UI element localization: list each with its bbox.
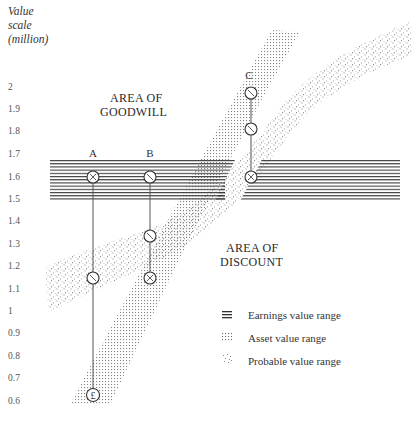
discount-line-1: AREA OF: [220, 241, 283, 255]
column-label-b: B: [146, 147, 153, 159]
marker-c-3: [245, 171, 257, 183]
y-axis-title-line-3: (million): [8, 32, 48, 46]
marker-b-2: [144, 230, 156, 242]
goodwill-line-1: AREA OF: [100, 91, 167, 105]
chart-canvas: £: [0, 0, 420, 422]
probable-stipple-icon: [220, 355, 236, 367]
asset-dots-icon: [220, 332, 236, 344]
y-tick: 0.8: [8, 351, 20, 361]
marker-b-1: [144, 171, 156, 183]
goodwill-line-2: GOODWILL: [100, 105, 167, 119]
y-axis-title: Value scale (million): [8, 4, 48, 46]
marker-a-2: [87, 272, 99, 284]
legend-item-asset: Asset value range: [220, 326, 341, 349]
y-tick: 0.6: [8, 396, 20, 406]
y-tick: 1.8: [8, 126, 20, 136]
marker-b-3: [144, 272, 156, 284]
svg-text:£: £: [91, 390, 96, 401]
marker-a-3: £: [87, 389, 100, 402]
area-of-discount-label: AREA OF DISCOUNT: [220, 241, 283, 269]
y-axis-title-line-2: scale: [8, 18, 48, 32]
legend: Earnings value range Asset value range P…: [220, 303, 341, 372]
discount-line-2: DISCOUNT: [220, 255, 283, 269]
column-label-a: A: [89, 147, 97, 159]
y-tick: 2: [8, 82, 13, 92]
marker-a-1: [87, 171, 99, 183]
y-tick: 1.4: [8, 216, 20, 226]
y-tick: 0.9: [8, 328, 20, 338]
column-label-c: C: [245, 69, 252, 81]
y-tick: 1.2: [8, 261, 20, 271]
legend-item-probable: Probable value range: [220, 349, 341, 372]
y-tick: 1.1: [8, 284, 20, 294]
y-tick: 1.3: [8, 239, 20, 249]
y-axis-title-line-1: Value: [8, 4, 48, 18]
legend-label-earnings: Earnings value range: [248, 309, 341, 321]
earnings-value-band: [50, 160, 400, 201]
marker-c-1: [245, 87, 257, 99]
legend-label-probable: Probable value range: [248, 355, 341, 367]
y-tick: 1.9: [8, 104, 20, 114]
y-tick: 1.6: [8, 172, 20, 182]
earnings-lines-icon: [220, 309, 236, 321]
legend-item-earnings: Earnings value range: [220, 303, 341, 326]
area-of-goodwill-label: AREA OF GOODWILL: [100, 91, 167, 119]
y-tick: 0.7: [8, 373, 20, 383]
marker-c-2: [245, 123, 257, 135]
legend-label-asset: Asset value range: [248, 332, 326, 344]
y-tick: 1: [8, 306, 13, 316]
y-tick: 1.5: [8, 194, 20, 204]
y-tick: 1.7: [8, 149, 20, 159]
